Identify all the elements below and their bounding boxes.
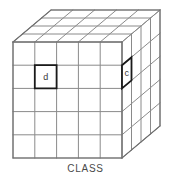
figure-caption: CLASS <box>0 163 171 174</box>
cube-diagram: dc <box>0 0 171 184</box>
front-face-cell-d-label: d <box>43 72 48 82</box>
right-face-cell-c-label: c <box>125 68 130 78</box>
class-cube-figure: dc CLASS <box>0 0 171 184</box>
highlighted-cells <box>35 57 132 88</box>
